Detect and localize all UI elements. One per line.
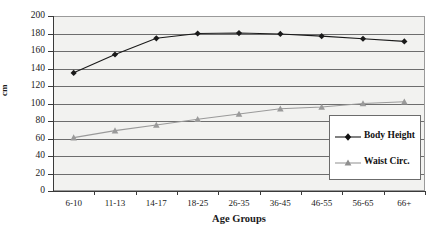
x-tick-mark [384, 191, 385, 195]
x-tick-mark [136, 191, 137, 195]
y-tick-mark [48, 51, 53, 52]
x-tick-label: 56-65 [353, 198, 374, 208]
x-tick-mark [94, 191, 95, 195]
x-tick-mark [301, 191, 302, 195]
x-tick-mark [342, 191, 343, 195]
gridline [54, 34, 424, 35]
y-tick-mark [48, 174, 53, 175]
y-tick-mark [48, 86, 53, 87]
y-axis-title: cm [0, 85, 9, 97]
gridline [54, 16, 424, 17]
x-axis-line [53, 191, 426, 192]
gridline [54, 69, 424, 70]
y-axis-line [53, 16, 54, 192]
chart-legend: Body Height Waist Circ. [329, 115, 421, 180]
x-tick-label: 26-35 [229, 198, 250, 208]
legend-marker-diamond-icon [335, 129, 361, 141]
y-tick-mark [48, 139, 53, 140]
y-tick-label: 80 [36, 116, 46, 126]
y-tick-label: 160 [31, 46, 45, 56]
gridline [54, 104, 424, 105]
y-tick-label: 100 [31, 99, 45, 109]
legend-marker-triangle-icon [335, 155, 361, 167]
gridline [54, 86, 424, 87]
x-tick-mark [218, 191, 219, 195]
x-tick-mark [260, 191, 261, 195]
x-tick-label: 6-10 [65, 198, 82, 208]
x-tick-label: 66+ [397, 198, 411, 208]
x-axis-title: Age Groups [53, 213, 425, 224]
y-tick-label: 180 [31, 29, 45, 39]
y-tick-label: 20 [36, 169, 46, 179]
legend-label-waist-circ: Waist Circ. [364, 156, 410, 166]
x-tick-mark [425, 191, 426, 195]
x-tick-label: 11-13 [105, 198, 126, 208]
y-tick-mark [48, 104, 53, 105]
y-tick-mark [48, 16, 53, 17]
x-tick-mark [177, 191, 178, 195]
legend-label-body-height: Body Height [364, 130, 415, 140]
y-tick-mark [48, 69, 53, 70]
legend-item-waist-circ: Waist Circ. [330, 154, 420, 168]
x-tick-label: 14-17 [146, 198, 167, 208]
y-tick-mark [48, 191, 53, 192]
gridline [54, 51, 424, 52]
y-tick-label: 40 [36, 151, 46, 161]
y-tick-mark [48, 34, 53, 35]
chart-container: 020406080100120140160180200 6-1011-1314-… [0, 0, 443, 236]
y-tick-label: 200 [31, 11, 45, 21]
y-tick-label: 120 [31, 81, 45, 91]
y-tick-label: 60 [36, 134, 46, 144]
x-tick-label: 46-55 [311, 198, 332, 208]
x-tick-label: 36-45 [270, 198, 291, 208]
y-tick-label: 140 [31, 64, 45, 74]
y-tick-label: 0 [40, 186, 45, 196]
y-tick-mark [48, 121, 53, 122]
legend-item-body-height: Body Height [330, 128, 420, 142]
y-tick-mark [48, 156, 53, 157]
x-tick-label: 18-25 [187, 198, 208, 208]
